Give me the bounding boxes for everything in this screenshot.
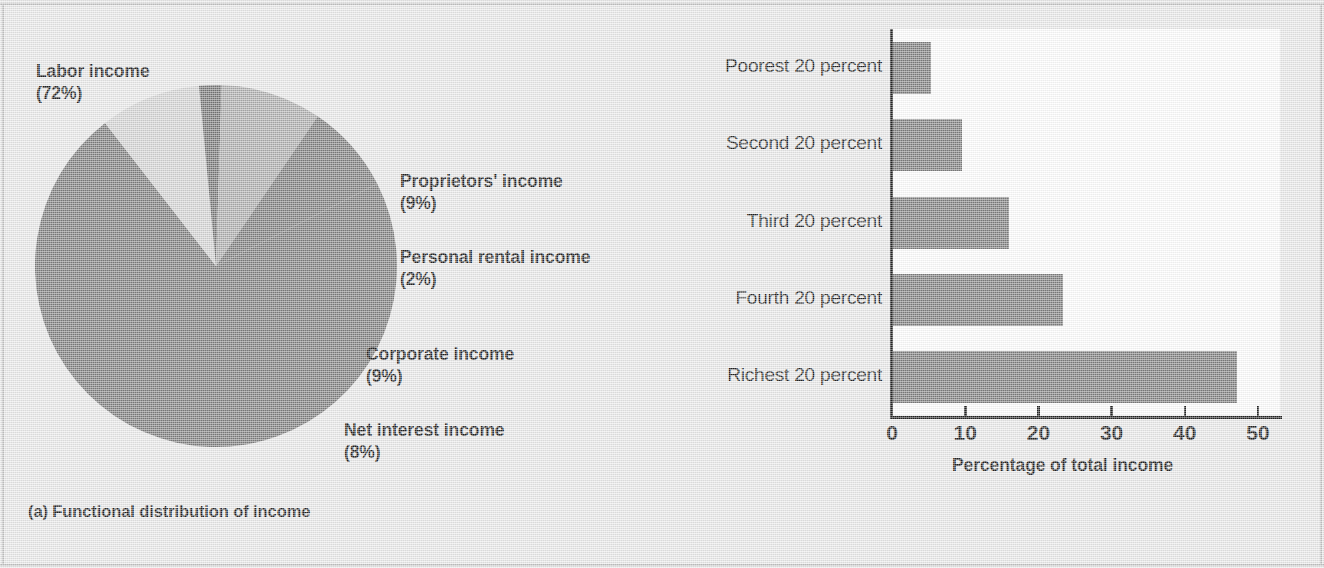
x-tick-50 bbox=[1257, 406, 1260, 417]
x-axis-line bbox=[890, 416, 1282, 419]
pie-label-corporate-income-name: Corporate income bbox=[366, 343, 514, 365]
bar-label-fourth-20-percent: Fourth 20 percent bbox=[735, 287, 882, 309]
pie-label-personal-rental-income: Personal rental income (2%) bbox=[400, 246, 590, 291]
x-tick-40 bbox=[1184, 406, 1187, 417]
x-tick-30 bbox=[1110, 406, 1113, 417]
pie-label-labor-income-name: Labor income bbox=[36, 60, 150, 82]
panel-a-caption: (a) Functional distribution of income bbox=[28, 502, 310, 521]
x-axis-title: Percentage of total income bbox=[952, 455, 1173, 476]
bar-third-20-percent bbox=[892, 197, 1009, 249]
panel-a-functional-distribution: Labor income (72%) Proprietors' income (… bbox=[0, 0, 662, 568]
pie-label-labor-income-value: (72%) bbox=[36, 82, 150, 104]
pie-label-net-interest-income-name: Net interest income bbox=[344, 419, 505, 441]
bar-poorest-20-percent bbox=[892, 42, 931, 94]
x-tick-label-50: 50 bbox=[1246, 421, 1269, 445]
y-axis-line bbox=[890, 29, 893, 418]
bar-label-second-20-percent: Second 20 percent bbox=[726, 132, 882, 154]
pie-label-personal-rental-income-name: Personal rental income bbox=[400, 246, 590, 268]
pie-label-personal-rental-income-value: (2%) bbox=[400, 268, 590, 290]
bar-label-third-20-percent: Third 20 percent bbox=[747, 210, 882, 232]
pie-label-corporate-income-value: (9%) bbox=[366, 365, 514, 387]
pie-label-corporate-income: Corporate income (9%) bbox=[366, 343, 514, 388]
pie-label-net-interest-income-value: (8%) bbox=[344, 441, 505, 463]
pie-label-proprietors-income: Proprietors' income (9%) bbox=[400, 170, 563, 215]
x-tick-label-10: 10 bbox=[954, 421, 977, 445]
figure-border-left bbox=[2, 3, 4, 565]
bar-label-poorest-20-percent: Poorest 20 percent bbox=[725, 55, 882, 77]
pie-label-net-interest-income: Net interest income (8%) bbox=[344, 419, 505, 464]
pie-label-proprietors-income-value: (9%) bbox=[400, 192, 563, 214]
figure-border-right bbox=[1320, 3, 1322, 565]
x-tick-label-40: 40 bbox=[1173, 421, 1196, 445]
bar-label-richest-20-percent: Richest 20 percent bbox=[727, 364, 882, 386]
panel-b-personal-distribution: Poorest 20 percentSecond 20 percentThird… bbox=[662, 0, 1324, 568]
bar-fourth-20-percent bbox=[892, 274, 1063, 326]
bar-richest-20-percent bbox=[892, 351, 1237, 403]
x-tick-10 bbox=[964, 406, 967, 417]
figure-container: Labor income (72%) Proprietors' income (… bbox=[0, 0, 1324, 568]
x-tick-label-0: 0 bbox=[886, 421, 898, 445]
figure-border-top bbox=[0, 3, 1324, 5]
pie-label-labor-income: Labor income (72%) bbox=[36, 60, 150, 105]
bar-second-20-percent bbox=[892, 119, 962, 171]
x-tick-label-30: 30 bbox=[1100, 421, 1123, 445]
x-tick-label-20: 20 bbox=[1027, 421, 1050, 445]
pie-chart bbox=[30, 80, 402, 452]
pie-label-proprietors-income-name: Proprietors' income bbox=[400, 170, 563, 192]
x-tick-20 bbox=[1037, 406, 1040, 417]
figure-border-bottom bbox=[0, 564, 1324, 566]
